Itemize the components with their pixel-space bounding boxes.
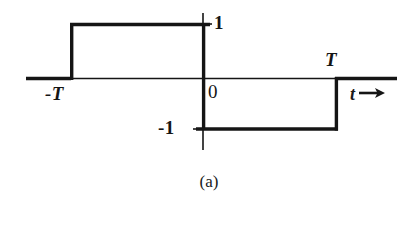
- figure-caption: (a): [200, 172, 219, 192]
- x-axis-variable-label: t: [350, 84, 355, 105]
- figure-caption-container: (a): [0, 172, 418, 192]
- x-axis-variable-group: t: [350, 84, 385, 105]
- y-axis-label-negative-one: -1: [158, 118, 175, 137]
- x-axis-label-negative-period: -T: [45, 84, 64, 103]
- arrow-right-icon: [359, 86, 385, 103]
- square-wave-plot: [0, 0, 418, 226]
- origin-label: 0: [208, 82, 218, 101]
- figure-container: 1 -1 0 -T T t (a): [0, 0, 418, 226]
- y-axis-label-positive-one: 1: [214, 13, 224, 32]
- x-axis-label-positive-period: T: [325, 50, 337, 69]
